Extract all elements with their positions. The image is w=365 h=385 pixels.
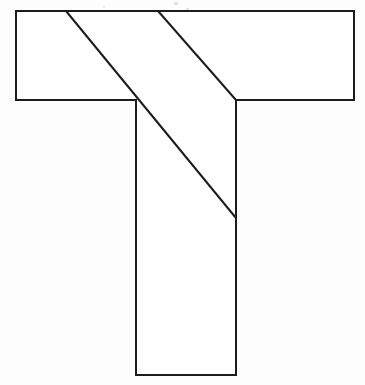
figure-canvas — [0, 0, 365, 385]
t-shape-outline — [16, 11, 354, 375]
t-shape-diagram — [0, 0, 365, 385]
